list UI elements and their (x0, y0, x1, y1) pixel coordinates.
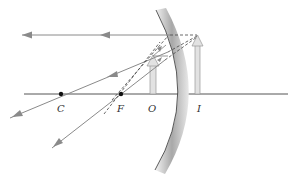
ray-arrowhead-icon (22, 32, 32, 39)
dashed-focal-line (112, 36, 168, 100)
label-i: I (196, 103, 202, 114)
center-of-curvature-point (59, 92, 63, 96)
ray-arrowhead-icon (100, 32, 110, 39)
label-o: O (148, 103, 156, 114)
convex-mirror-ray-diagram: C F O I (0, 0, 288, 177)
ray-arrowhead-icon (53, 138, 63, 147)
ray-arrowhead-icon (12, 110, 23, 117)
ray-arrowhead-icon (157, 57, 162, 62)
convex-mirror (155, 8, 189, 174)
label-c: C (57, 103, 65, 114)
image-arrow (192, 35, 203, 94)
object-arrow (147, 55, 159, 94)
ray-arrowhead-icon (107, 71, 118, 77)
focal-point (119, 92, 123, 96)
label-f: F (116, 103, 125, 114)
